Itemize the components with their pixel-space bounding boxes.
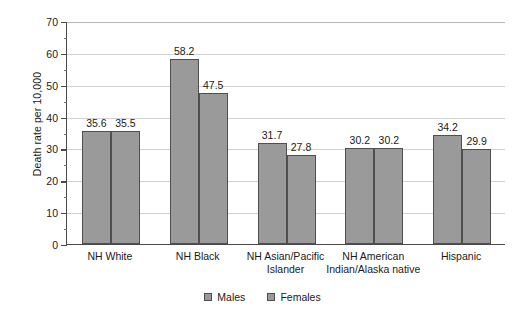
- x-axis-category-label: Hispanic: [441, 250, 481, 263]
- x-axis-category-label: NH White: [87, 250, 132, 263]
- y-axis-tick-minor: [64, 229, 68, 230]
- bar-females: [462, 149, 491, 244]
- data-label-males: 35.6: [86, 118, 106, 129]
- y-axis-tick-minor: [64, 197, 68, 198]
- y-axis-tick-label: 50: [46, 80, 58, 91]
- data-label-females: 35.5: [115, 118, 135, 129]
- plot-area: 01020304050607035.635.558.247.531.727.83…: [66, 22, 505, 245]
- y-axis-tick-minor: [64, 102, 68, 103]
- y-axis-tick-major: [61, 118, 67, 119]
- legend-swatch-icon: [267, 293, 275, 301]
- data-label-females: 47.5: [203, 80, 223, 91]
- data-label-females: 27.8: [291, 142, 311, 153]
- y-axis-tick-major: [61, 86, 67, 87]
- data-label-females: 30.2: [379, 135, 399, 146]
- y-axis-tick-label: 0: [52, 240, 58, 251]
- legend-swatch-icon: [204, 293, 212, 301]
- bar-males: [345, 148, 374, 244]
- data-label-males: 58.2: [174, 46, 194, 57]
- y-axis-tick-minor: [64, 165, 68, 166]
- legend-item: Males: [204, 291, 245, 303]
- y-axis-tick-label: 60: [46, 49, 58, 60]
- y-axis-tick-major: [61, 54, 67, 55]
- bar-females: [287, 155, 316, 244]
- bar-females: [374, 148, 403, 244]
- x-axis-category-label: NH Black: [176, 250, 220, 263]
- y-axis-tick-major: [61, 22, 67, 23]
- y-axis-tick-major: [61, 149, 67, 150]
- legend-item: Females: [267, 291, 320, 303]
- y-axis-tick-label: 20: [46, 176, 58, 187]
- y-axis-tick-major: [61, 245, 67, 246]
- y-axis-tick-major: [61, 213, 67, 214]
- bar-males: [433, 135, 462, 244]
- data-label-females: 29.9: [466, 136, 486, 147]
- bar-group: [82, 22, 140, 244]
- y-axis-title: Death rate per 10,000: [31, 39, 43, 209]
- y-axis-tick-label: 10: [46, 208, 58, 219]
- y-axis-tick-minor: [64, 70, 68, 71]
- x-axis-category-label: NH Asian/Pacific Islander: [247, 250, 325, 275]
- y-axis-tick-label: 30: [46, 144, 58, 155]
- data-label-males: 30.2: [350, 135, 370, 146]
- bar-males: [82, 131, 111, 244]
- bar-chart-figure: Death rate per 10,000 01020304050607035.…: [0, 0, 525, 318]
- legend-label: Males: [217, 291, 245, 303]
- x-axis-category-label: NH American Indian/Alaska native: [326, 250, 420, 275]
- data-label-males: 34.2: [437, 122, 457, 133]
- y-axis-tick-minor: [64, 38, 68, 39]
- data-label-males: 31.7: [262, 130, 282, 141]
- chart-legend: MalesFemales: [0, 291, 525, 303]
- bar-males: [170, 59, 199, 244]
- bar-males: [258, 143, 287, 244]
- y-axis-tick-major: [61, 181, 67, 182]
- legend-label: Females: [280, 291, 320, 303]
- bar-females: [199, 93, 228, 244]
- y-axis-tick-label: 40: [46, 112, 58, 123]
- y-axis-tick-label: 70: [46, 17, 58, 28]
- y-axis-tick-minor: [64, 134, 68, 135]
- bar-females: [111, 131, 140, 244]
